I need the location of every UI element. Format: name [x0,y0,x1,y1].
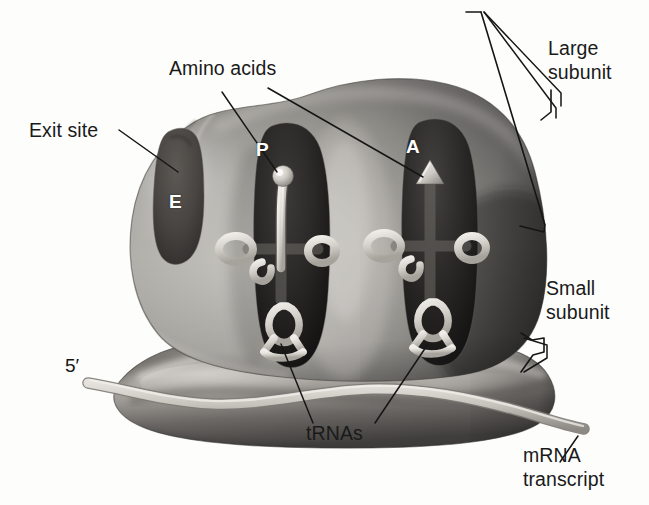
figure-canvas: Amino acids Exit site Large subunit Smal… [0,0,649,505]
amino-acid-sphere-p [273,166,294,187]
label-mrna-line2: transcript [523,467,604,491]
label-exit-site: Exit site [29,119,98,142]
label-small-subunit-line1: Small [546,276,595,300]
label-large-subunit-line2: subunit [548,60,612,84]
label-five-prime: 5′ [65,355,79,377]
label-mrna-line1: mRNA [523,443,581,467]
label-large-subunit-line1: Large [548,36,598,60]
site-label-e: E [169,191,182,213]
label-amino-acids: Amino acids [169,57,276,80]
label-trnas: tRNAs [306,422,363,445]
site-label-p: P [256,139,269,161]
label-small-subunit-line2: subunit [546,300,610,324]
site-label-a: A [406,136,420,158]
